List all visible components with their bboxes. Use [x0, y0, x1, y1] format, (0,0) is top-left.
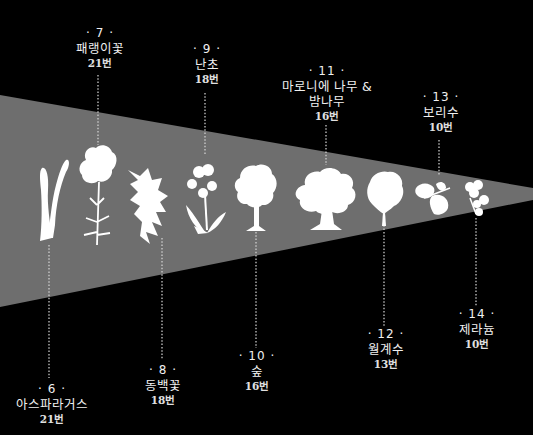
- item-name: 숲: [239, 364, 276, 379]
- label-item-13: · 13 · 보리수 10번: [423, 91, 460, 133]
- label-item-9: · 9 · 난초 18번: [193, 43, 221, 85]
- item-number: · 7 ·: [76, 27, 124, 39]
- plant-infographic: · 6 · 아스파라거스 21번 · 7 · 패랭이꽃 21번 · 8 · 동백…: [0, 0, 533, 435]
- item-number: · 8 ·: [145, 364, 181, 376]
- item-number: · 6 ·: [16, 383, 88, 395]
- item-number: · 11 ·: [282, 65, 372, 77]
- item-count: 10번: [459, 339, 496, 350]
- label-item-10: · 10 · 숲 16번: [239, 350, 276, 392]
- item-name: 동백꽃: [145, 378, 181, 393]
- item-count: 16번: [282, 111, 372, 122]
- item-number: · 9 ·: [193, 43, 221, 55]
- item-count: 18번: [193, 74, 221, 85]
- label-item-7: · 7 · 패랭이꽃 21번: [76, 27, 124, 69]
- item-count: 21번: [76, 58, 124, 69]
- label-item-11: · 11 · 마로니에 나무 & 밤나무 16번: [282, 65, 372, 122]
- item-name: 제라늄: [459, 322, 496, 337]
- item-count: 16번: [239, 381, 276, 392]
- item-name: 월계수: [368, 342, 405, 357]
- label-item-14: · 14 · 제라늄 10번: [459, 308, 496, 350]
- item-count: 21번: [16, 414, 88, 425]
- item-number: · 13 ·: [423, 91, 460, 103]
- label-item-8: · 8 · 동백꽃 18번: [145, 364, 181, 406]
- item-count: 10번: [423, 122, 460, 133]
- item-number: · 12 ·: [368, 328, 405, 340]
- label-item-6: · 6 · 아스파라거스 21번: [16, 383, 88, 425]
- item-name: 아스파라거스: [16, 397, 88, 412]
- item-name: 패랭이꽃: [76, 41, 124, 56]
- item-count: 13번: [368, 359, 405, 370]
- item-name: 마로니에 나무 &: [282, 79, 372, 94]
- item-name: 보리수: [423, 105, 460, 120]
- item-number: · 10 ·: [239, 350, 276, 362]
- item-number: · 14 ·: [459, 308, 496, 320]
- label-item-12: · 12 · 월계수 13번: [368, 328, 405, 370]
- item-count: 18번: [145, 395, 181, 406]
- item-name-line2: 밤나무: [282, 94, 372, 109]
- item-name: 난초: [193, 57, 221, 72]
